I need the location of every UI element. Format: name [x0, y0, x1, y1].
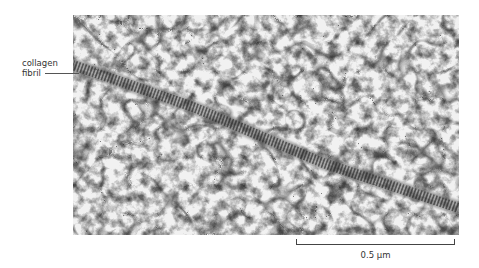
scale-bar [296, 239, 455, 245]
collagen-fibril-label: collagen fibril [22, 58, 58, 78]
electron-micrograph [73, 15, 459, 235]
label-leader-line [45, 73, 79, 74]
scale-bar-label: 0.5 µm [296, 250, 455, 260]
label-line1: collagen [22, 58, 58, 68]
